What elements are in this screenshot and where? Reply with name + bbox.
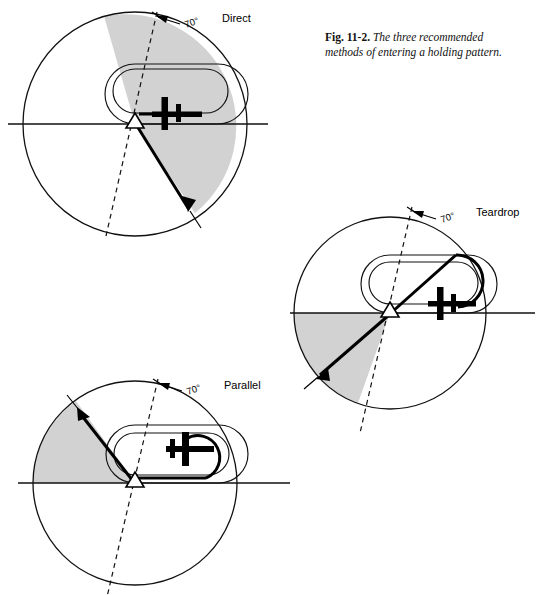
parallel-method-label: Parallel (224, 379, 261, 391)
direct-angle-label: 70° (183, 15, 200, 30)
diagram-direct: 70° Direct (0, 0, 300, 245)
teardrop-method-label: Teardrop (476, 206, 519, 218)
parallel-angle-label: 70° (185, 382, 202, 397)
parallel-entry-turn (186, 436, 220, 478)
parallel-angle-arrowhead (158, 383, 170, 390)
teardrop-aircraft-icon (428, 287, 476, 320)
teardrop-angle-arrowhead (412, 211, 424, 218)
figure-caption-line1: The three recommended (373, 31, 483, 43)
figure-caption-line2: methods of entering a holding pattern. (325, 46, 502, 58)
teardrop-angle-label: 70° (439, 210, 456, 225)
figure-caption: Fig. 11-2. The three recommended methods… (325, 30, 535, 60)
diagram-parallel: 70° Parallel (10, 365, 310, 595)
direct-entry-arrow-tail (190, 211, 201, 228)
diagram-teardrop: 70° Teardrop (290, 195, 539, 455)
figure-caption-number: Fig. 11-2. (325, 31, 370, 43)
direct-method-label: Direct (222, 12, 251, 24)
